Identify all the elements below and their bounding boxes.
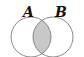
set-a-label: A	[21, 4, 34, 20]
set-b-label: B	[54, 4, 67, 20]
venn-diagram: A B	[0, 0, 84, 57]
